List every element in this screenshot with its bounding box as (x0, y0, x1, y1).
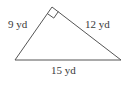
triangle-diagram: 9 yd 12 yd 15 yd (0, 0, 123, 97)
side-label-bottom: 15 yd (51, 65, 76, 76)
triangle-outline (15, 7, 121, 60)
side-label-left: 9 yd (8, 19, 27, 30)
right-angle-marker-icon (47, 12, 58, 19)
triangle-figure (0, 0, 123, 97)
side-label-right: 12 yd (85, 19, 110, 30)
